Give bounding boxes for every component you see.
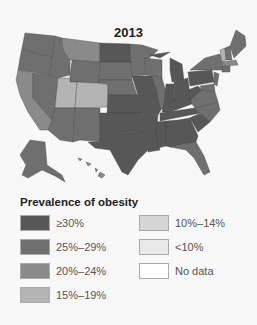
legend-title: Prevalence of obesity xyxy=(20,196,138,208)
state-AR xyxy=(140,113,158,135)
legend-swatch xyxy=(20,239,50,255)
state-WY xyxy=(70,60,100,83)
legend-item-25-29: 25%–29% xyxy=(20,239,106,255)
state-UT xyxy=(55,78,77,108)
legend-swatch xyxy=(139,239,169,255)
legend-swatch xyxy=(20,263,50,279)
state-AK xyxy=(20,140,65,182)
legend-swatch xyxy=(139,215,169,231)
legend-swatch xyxy=(20,215,50,231)
state-PA xyxy=(188,70,214,86)
state-HI xyxy=(78,158,105,178)
state-KS xyxy=(107,95,140,113)
state-AL xyxy=(166,120,180,147)
legend-label: ≥30% xyxy=(56,217,84,229)
legend-swatch xyxy=(20,287,50,303)
legend-label: No data xyxy=(175,265,214,277)
state-CT xyxy=(222,66,230,72)
legend-item-15-19: 15%–19% xyxy=(20,287,106,303)
legend-label: 15%–19% xyxy=(56,289,106,301)
state-NY xyxy=(190,54,224,70)
legend-item-under-10: <10% xyxy=(139,239,203,255)
legend-label: 10%–14% xyxy=(175,217,225,229)
state-MS xyxy=(156,121,166,148)
legend-label: 25%–29% xyxy=(56,241,106,253)
legend-item-no-data: No data xyxy=(139,263,214,279)
legend-item-20-24: 20%–24% xyxy=(20,263,106,279)
state-NM xyxy=(73,108,100,142)
state-CO xyxy=(75,82,108,108)
state-ND xyxy=(100,43,131,62)
legend-item-10-14: 10%–14% xyxy=(139,215,225,231)
legend-label: <10% xyxy=(175,241,203,253)
legend-item-30-plus: ≥30% xyxy=(20,215,84,231)
state-SD xyxy=(99,62,132,80)
state-WI xyxy=(145,58,162,78)
state-FL xyxy=(170,142,210,175)
legend-label: 20%–24% xyxy=(56,265,106,277)
state-NJ xyxy=(214,72,219,86)
state-ME xyxy=(230,30,246,58)
legend-swatch xyxy=(139,263,169,279)
